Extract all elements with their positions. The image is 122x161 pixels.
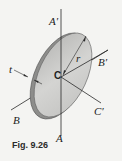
label-c: C (54, 71, 61, 81)
label-t: t (9, 64, 12, 75)
label-a-prime: A′ (49, 16, 58, 27)
figure: A′ A B B′ C C′ t r Fig. 9.26 (0, 0, 122, 161)
label-c-prime: C′ (94, 106, 104, 117)
label-b: B (13, 115, 20, 126)
label-r: r (76, 53, 80, 64)
label-a: A (56, 133, 63, 144)
figure-caption: Fig. 9.26 (12, 141, 48, 150)
label-b-prime: B′ (98, 57, 107, 68)
